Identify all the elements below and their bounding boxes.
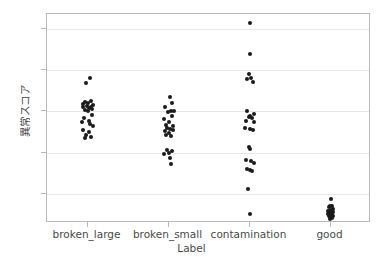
data-point: [251, 128, 255, 132]
x-tick-mark: [168, 222, 169, 227]
scatter-plot-figure: 異常スコア 1015202530 broken_largebroken_smal…: [0, 0, 383, 257]
data-point: [329, 197, 333, 201]
data-point: [162, 152, 166, 156]
x-tick-mark: [330, 222, 331, 227]
y-axis-label-container: 異常スコア: [0, 0, 20, 222]
data-point: [245, 77, 249, 81]
y-gridline: [47, 70, 369, 71]
data-point: [168, 95, 172, 99]
x-tick-mark: [249, 222, 250, 227]
data-point: [87, 130, 91, 134]
data-point: [251, 80, 255, 84]
data-point: [244, 158, 248, 162]
data-point: [89, 135, 93, 139]
data-point: [246, 187, 250, 191]
data-point: [164, 133, 168, 137]
data-point: [167, 151, 171, 155]
data-point: [170, 101, 174, 105]
x-tick-label-good: good: [316, 228, 342, 240]
data-point: [171, 128, 175, 132]
x-tick-label-contamination: contamination: [211, 228, 287, 240]
data-point: [81, 128, 85, 132]
data-point: [248, 21, 252, 25]
data-point: [248, 52, 252, 56]
x-tick-label-broken_small: broken_small: [133, 228, 202, 240]
data-point: [328, 217, 332, 221]
y-gridline: [47, 153, 369, 154]
data-point: [170, 114, 174, 118]
x-axis-label: Label: [0, 242, 383, 254]
data-point: [244, 119, 248, 123]
data-point: [162, 117, 166, 121]
data-point: [248, 212, 252, 216]
data-point: [245, 109, 249, 113]
data-point: [84, 81, 88, 85]
data-point: [252, 120, 256, 124]
data-point: [250, 169, 254, 173]
data-point: [248, 147, 252, 151]
data-point: [91, 124, 95, 128]
data-point: [88, 76, 92, 80]
y-axis-label: 異常スコア: [17, 85, 32, 138]
data-point: [166, 110, 170, 114]
data-point: [169, 134, 173, 138]
data-point: [168, 156, 172, 160]
data-point: [83, 136, 87, 140]
data-point: [172, 109, 176, 113]
data-point: [163, 105, 167, 109]
data-point: [252, 161, 256, 165]
data-point: [80, 120, 84, 124]
data-point: [243, 126, 247, 130]
x-tick-mark: [87, 222, 88, 227]
y-gridline: [47, 194, 369, 195]
y-gridline: [47, 111, 369, 112]
plot-area: [46, 13, 370, 222]
x-tick-label-broken_large: broken_large: [53, 228, 121, 240]
data-point: [90, 113, 94, 117]
data-point: [169, 162, 173, 166]
y-gridline: [47, 29, 369, 30]
data-point: [86, 109, 90, 113]
data-point: [90, 107, 94, 111]
